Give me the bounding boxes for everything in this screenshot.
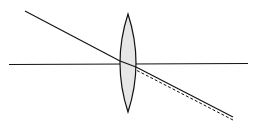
- incident-ray: [25, 11, 120, 61]
- convex-lens: [120, 14, 136, 112]
- lens-diagram: [0, 0, 259, 126]
- undeviated-ray-extension: [137, 71, 233, 121]
- refracted-ray: [136, 67, 233, 117]
